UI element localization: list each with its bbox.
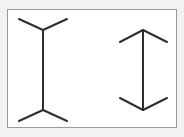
figure-root — [0, 0, 184, 137]
muller-lyer-figure — [0, 0, 184, 137]
panel-background — [8, 10, 177, 128]
